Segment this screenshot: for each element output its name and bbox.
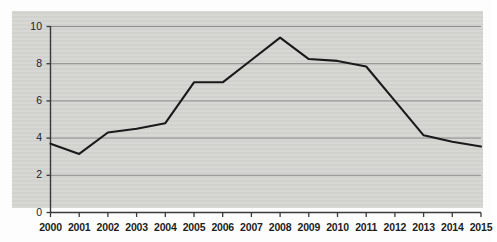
y-tick-label: 10 bbox=[20, 20, 42, 32]
gridline-group bbox=[47, 27, 482, 213]
y-tick-label: 6 bbox=[20, 94, 42, 106]
y-tick-label: 4 bbox=[20, 131, 42, 143]
x-tick-label: 2015 bbox=[464, 221, 497, 233]
data-series-line bbox=[51, 38, 482, 154]
y-tick-label: 2 bbox=[20, 168, 42, 180]
y-tick-label: 0 bbox=[20, 206, 42, 218]
y-tick-label: 8 bbox=[20, 57, 42, 69]
